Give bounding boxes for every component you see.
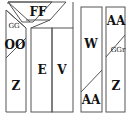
label-w: W (84, 38, 97, 50)
label-ggr: GGr (111, 47, 126, 54)
label-gg: GG (8, 23, 19, 30)
label-oo: OO (5, 39, 26, 51)
label-aa-right1: AA (82, 94, 101, 106)
label-z-left: Z (12, 80, 21, 92)
label-e: E (37, 64, 46, 76)
label-aa-right2: AA (107, 15, 126, 27)
label-ff: FF (29, 6, 46, 18)
label-v: V (57, 64, 66, 76)
label-z-right: Z (112, 80, 121, 92)
